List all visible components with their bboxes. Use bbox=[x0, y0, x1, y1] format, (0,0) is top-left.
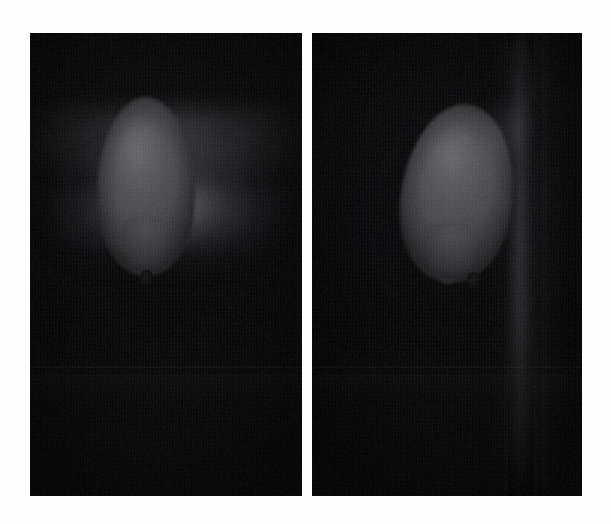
figure-root bbox=[0, 0, 611, 524]
panel-right-background bbox=[312, 33, 582, 496]
panel-left-background bbox=[30, 33, 302, 496]
image-panel-right[interactable] bbox=[312, 33, 582, 496]
image-panel-left[interactable] bbox=[30, 33, 302, 496]
